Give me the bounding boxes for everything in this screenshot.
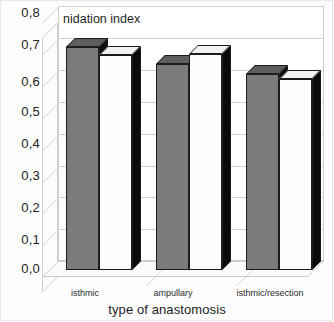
bar-chart-figure: 0,8 0,7 0,6 0,5 0,4 0,3 0,2 0,1 0,0 [0, 0, 334, 322]
y-axis-tick-label: 0,1 [0, 232, 40, 247]
bar-isthmic-grey [66, 47, 99, 270]
y-axis-tick-label: 0,0 [0, 261, 40, 276]
bar-ampullary-white [189, 54, 222, 270]
y-axis-tick-label: 0,7 [0, 37, 40, 52]
bar-ampullary-grey [156, 64, 189, 270]
y-axis-tick-label: 0,6 [0, 74, 40, 89]
x-axis-category-label-ampullary: ampullary [133, 288, 213, 298]
gridline-connector-0-8 [42, 6, 59, 24]
bar-isthmic-resection-white [279, 79, 312, 270]
y-axis-title: nidation index [63, 12, 140, 26]
y-axis-tick-label: 0,4 [0, 136, 40, 151]
bar-isthmic-white [99, 55, 132, 270]
x-axis-category-label-isthmic-resection: isthmic/resection [218, 288, 322, 298]
y-axis-tick-label: 0,3 [0, 168, 40, 183]
bar-front-face [279, 79, 312, 270]
x-axis-category-label-isthmic: isthmic [45, 288, 125, 298]
bar-front-face [66, 47, 99, 270]
bar-front-face [99, 55, 132, 270]
bar-front-face [246, 74, 279, 270]
bar-front-face [189, 54, 222, 270]
y-axis-tick-label: 0,8 [0, 5, 40, 20]
gridline-0-8 [58, 6, 324, 7]
y-axis-tick-label: 0,5 [0, 104, 40, 119]
x-axis-title: type of anastomosis [0, 302, 334, 317]
plot-left-wall [42, 22, 58, 293]
bar-side-face [312, 70, 321, 270]
bar-side-face [222, 45, 231, 270]
bar-isthmic-resection-grey [246, 74, 279, 270]
bar-side-face [132, 46, 141, 270]
y-axis-tick-label: 0,2 [0, 200, 40, 215]
bar-front-face [156, 64, 189, 270]
plot-area [42, 6, 328, 286]
